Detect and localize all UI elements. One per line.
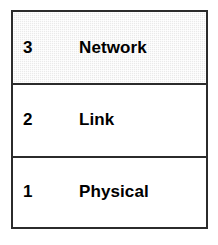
layer-number: 3 bbox=[23, 39, 32, 56]
layer-row[interactable]: 1 Physical bbox=[13, 156, 206, 227]
layer-number: 1 bbox=[23, 183, 32, 200]
layer-row[interactable]: 3 Network bbox=[13, 12, 206, 83]
layer-stack-box: 3 Network 2 Link 1 Physical bbox=[11, 10, 208, 229]
layer-stack-diagram: 3 Network 2 Link 1 Physical bbox=[0, 0, 218, 245]
layer-row[interactable]: 2 Link bbox=[13, 83, 206, 155]
layer-label: Physical bbox=[79, 183, 149, 200]
layer-label: Network bbox=[79, 39, 147, 56]
layer-label: Link bbox=[79, 112, 114, 129]
layer-number: 2 bbox=[23, 112, 32, 129]
